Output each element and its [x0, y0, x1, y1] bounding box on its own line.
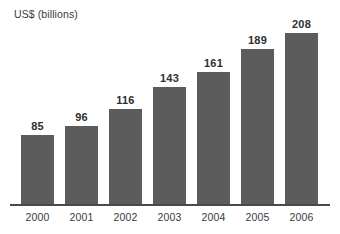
bar-value-label: 189 [235, 34, 280, 46]
bar-group: 96 [65, 0, 98, 205]
bar [241, 49, 274, 205]
bar-group: 208 [285, 0, 318, 205]
bar-group: 85 [21, 0, 54, 205]
x-axis-labels: 2000200120022003200420052006 [0, 211, 340, 227]
bar-group: 116 [109, 0, 142, 205]
x-axis-tick-label: 2001 [59, 211, 104, 223]
bar [197, 72, 230, 205]
bar-group: 161 [197, 0, 230, 205]
bar [285, 33, 318, 205]
bar-value-label: 143 [147, 72, 192, 84]
x-axis-tick-label: 2002 [103, 211, 148, 223]
bar-group: 189 [241, 0, 274, 205]
bar-value-label: 96 [59, 111, 104, 123]
bar-value-label: 116 [103, 94, 148, 106]
x-axis-tick-label: 2004 [191, 211, 236, 223]
bar [109, 109, 142, 205]
x-axis-tick-label: 2000 [15, 211, 60, 223]
bar [65, 126, 98, 205]
bar-value-label: 85 [15, 120, 60, 132]
x-axis-tick-label: 2005 [235, 211, 280, 223]
x-axis-tick-label: 2003 [147, 211, 192, 223]
bar [153, 87, 186, 205]
bar-group: 143 [153, 0, 186, 205]
bar-chart: US$ (billions) 8596116143161189208 20002… [0, 0, 340, 234]
x-axis-line [10, 204, 330, 206]
bar-value-label: 208 [279, 18, 324, 30]
bar [21, 135, 54, 205]
x-axis-tick-label: 2006 [279, 211, 324, 223]
plot-area: 8596116143161189208 [0, 0, 340, 205]
bar-value-label: 161 [191, 57, 236, 69]
